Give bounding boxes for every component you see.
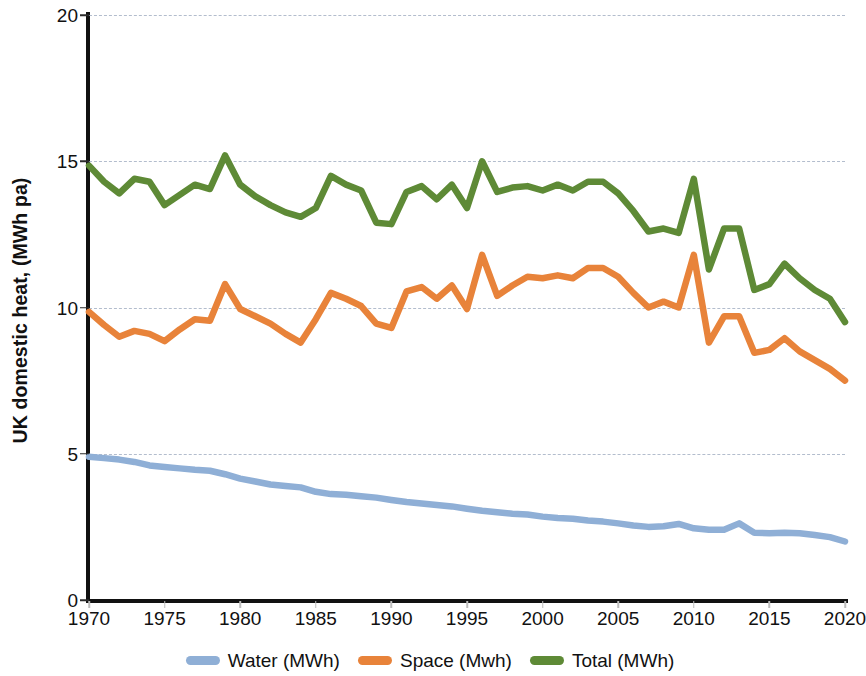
legend-swatch-icon — [186, 656, 220, 665]
series-line — [89, 255, 845, 381]
x-tick-label: 2005 — [597, 608, 639, 631]
y-tick-label: 10 — [36, 298, 78, 317]
y-tick-mark — [80, 161, 89, 163]
y-axis-title-text: UK domestic heat, (MWh pa) — [10, 177, 33, 443]
y-tick-label: 5 — [36, 444, 78, 463]
legend-item[interactable]: Total (MWh) — [530, 651, 674, 670]
x-tick-mark — [769, 601, 771, 608]
y-tick-mark — [80, 453, 89, 455]
x-tick-label: 2000 — [521, 608, 563, 631]
x-tick-mark — [542, 601, 544, 608]
x-tick-mark — [693, 601, 695, 608]
y-tick-mark — [80, 14, 89, 16]
x-tick-label: 2015 — [748, 608, 790, 631]
plot-area — [89, 15, 845, 600]
x-tick-mark — [88, 601, 90, 608]
x-tick-mark — [239, 601, 241, 608]
legend-swatch-icon — [530, 656, 564, 665]
x-tick-label: 1995 — [446, 608, 488, 631]
legend-item[interactable]: Space (Mwh) — [358, 651, 512, 670]
x-tick-mark — [844, 601, 846, 608]
x-tick-label: 1975 — [143, 608, 185, 631]
x-tick-mark — [391, 601, 393, 608]
y-tick-label: 20 — [36, 6, 78, 25]
series-layer — [89, 15, 845, 600]
y-tick-label: 15 — [36, 152, 78, 171]
x-tick-mark — [315, 601, 317, 608]
x-tick-label: 1970 — [68, 608, 110, 631]
legend-label: Total (MWh) — [572, 651, 674, 670]
legend-item[interactable]: Water (MWh) — [186, 651, 340, 670]
x-tick-label: 1980 — [219, 608, 261, 631]
legend-swatch-icon — [358, 656, 392, 665]
y-tick-mark — [80, 307, 89, 309]
legend-label: Space (Mwh) — [400, 651, 512, 670]
x-tick-mark — [466, 601, 468, 608]
y-tick-label: 0 — [36, 591, 78, 610]
legend-label: Water (MWh) — [228, 651, 340, 670]
y-axis-tick-labels: 05101520 — [36, 0, 78, 676]
x-tick-label: 1985 — [295, 608, 337, 631]
series-line — [89, 457, 845, 542]
x-tick-label: 1990 — [370, 608, 412, 631]
x-tick-mark — [164, 601, 166, 608]
x-tick-label: 2010 — [673, 608, 715, 631]
x-tick-mark — [617, 601, 619, 608]
x-tick-label: 2020 — [824, 608, 866, 631]
chart-legend: Water (MWh)Space (Mwh)Total (MWh) — [0, 645, 860, 676]
x-axis-tick-labels: 1970197519801985199019952000200520102015… — [0, 608, 860, 640]
